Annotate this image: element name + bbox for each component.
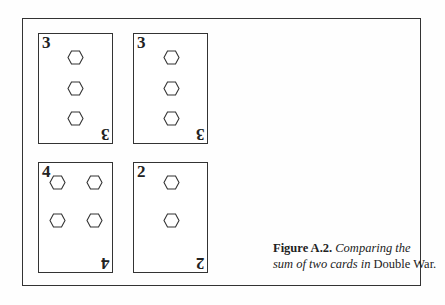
hexagon-icon [163,213,180,228]
caption-text-2: sum of two cards in [273,257,370,271]
hexagon-icon [67,50,84,65]
caption-text-1: Comparing the [335,241,410,255]
hexagon-icon [49,213,66,228]
card-rank-bottom: 4 [101,254,110,272]
card-3-a: 3 3 [38,33,113,144]
hexagon-icon [86,175,103,190]
figure-caption: Figure A.2. Comparing the sum of two car… [273,240,436,272]
hexagon-icon [67,111,84,126]
card-rank-top: 3 [137,34,146,52]
card-4: 4 4 [38,162,113,273]
card-rank-top: 3 [42,34,51,52]
hexagon-icon [67,81,84,96]
card-rank-bottom: 3 [101,125,110,143]
hexagon-icon [163,175,180,190]
card-rank-bottom: 2 [196,254,205,272]
card-rank-bottom: 3 [196,125,205,143]
hexagon-icon [163,50,180,65]
hexagon-icon [86,213,103,228]
figure-label: Figure A.2. [273,241,332,255]
card-2: 2 2 [133,162,208,273]
hexagon-icon [163,81,180,96]
card-3-b: 3 3 [133,33,208,144]
hexagon-icon [49,175,66,190]
hexagon-icon [163,111,180,126]
caption-game-name: Double War. [374,257,437,271]
card-rank-top: 2 [137,163,146,181]
